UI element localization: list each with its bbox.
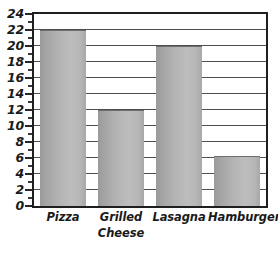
bar-chart-figure: 242220181614121086420 PizzaGrilledCheese… — [0, 0, 278, 262]
x-tick-label: GrilledCheese — [92, 210, 150, 241]
x-tick-label: Hamburger — [208, 210, 266, 226]
y-tick-label: 24 — [7, 8, 24, 21]
x-tick-label-line: Cheese — [92, 226, 150, 242]
y-tick-label: 12 — [7, 104, 24, 117]
x-tick-label-line: Hamburger — [208, 210, 266, 226]
y-tick-label: 0 — [16, 200, 25, 213]
y-tick-label: 14 — [7, 88, 24, 101]
y-axis: 242220181614121086420 — [0, 0, 34, 262]
bars-group — [34, 14, 266, 206]
y-tick-label: 10 — [7, 120, 24, 133]
plot-area — [32, 12, 268, 208]
y-tick-label: 4 — [16, 168, 25, 181]
y-tick-label: 8 — [16, 136, 25, 149]
bar — [98, 110, 143, 206]
y-tick-label: 6 — [16, 152, 25, 165]
x-axis-tick-labels: PizzaGrilledCheeseLasagnaHamburger — [32, 210, 268, 260]
bar — [214, 156, 259, 206]
y-tick-label: 18 — [7, 56, 24, 69]
y-tick-label: 2 — [16, 184, 25, 197]
x-tick-label: Pizza — [34, 210, 92, 226]
y-tick-label: 22 — [7, 24, 24, 37]
x-tick-label: Lasagna — [150, 210, 208, 226]
bar — [40, 30, 85, 206]
y-tick-label: 16 — [7, 72, 24, 85]
x-tick-label-line: Grilled — [92, 210, 150, 226]
x-tick-label-line: Pizza — [34, 210, 92, 226]
x-tick-label-line: Lasagna — [150, 210, 208, 226]
y-tick-label: 20 — [7, 40, 24, 53]
bar — [156, 46, 201, 206]
